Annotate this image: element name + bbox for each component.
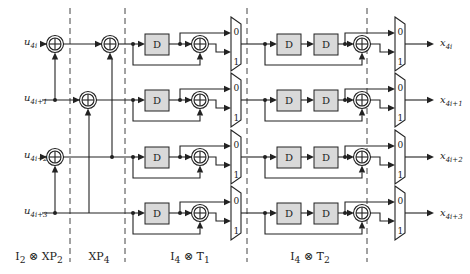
delay-label: D xyxy=(322,95,330,106)
delay-label: D xyxy=(153,39,161,50)
output-label-3: x4i+3 xyxy=(440,208,463,221)
arrow-right-icon xyxy=(270,97,277,103)
mux-input-0-label: 0 xyxy=(234,140,240,150)
arrow-right-icon xyxy=(307,97,314,103)
wire xyxy=(371,100,391,108)
arrow-right-icon xyxy=(138,154,145,160)
arrow-up-icon xyxy=(359,109,365,116)
wire xyxy=(371,213,391,221)
stage-label-xp4: XP4 xyxy=(72,251,126,264)
arrow-up-icon xyxy=(197,109,203,116)
mux-input-0-label: 0 xyxy=(398,140,404,150)
wire xyxy=(209,100,227,108)
mux-input-1-label: 1 xyxy=(234,170,240,180)
arrow-up-icon xyxy=(359,53,365,60)
output-label-1: x4i+1 xyxy=(440,95,463,108)
mux-input-0-label: 0 xyxy=(234,27,240,37)
arrow-right-icon xyxy=(224,49,231,55)
input-label-0: u4i xyxy=(24,37,37,50)
arrow-right-icon xyxy=(224,143,231,149)
arrow-up-icon xyxy=(359,166,365,173)
arrow-right-icon xyxy=(388,49,395,55)
mux-input-1-label: 1 xyxy=(398,170,404,180)
xor-gate xyxy=(192,149,209,166)
xor-gate xyxy=(102,36,119,53)
xor-gate xyxy=(192,36,209,53)
xor-gate xyxy=(354,205,371,222)
arrow-up-icon xyxy=(197,166,203,173)
xor-gate xyxy=(47,149,64,166)
wire xyxy=(209,157,227,165)
input-label-3: u4i+3 xyxy=(24,206,47,219)
delay-label: D xyxy=(322,39,330,50)
arrow-right-icon xyxy=(307,41,314,47)
mux-input-0-label: 0 xyxy=(398,83,404,93)
arrow-up-icon xyxy=(107,53,113,60)
arrow-right-icon xyxy=(427,154,434,160)
arrow-up-icon xyxy=(52,53,58,60)
arrow-right-icon xyxy=(307,210,314,216)
arrow-right-icon xyxy=(270,210,277,216)
arrow-right-icon xyxy=(185,154,192,160)
output-label-2: x4i+2 xyxy=(440,151,463,164)
arrow-right-icon xyxy=(224,105,231,111)
output-label-0: x4i xyxy=(440,38,452,51)
arrow-right-icon xyxy=(138,97,145,103)
delay-label: D xyxy=(322,152,330,163)
arrow-right-icon xyxy=(270,154,277,160)
arrow-right-icon xyxy=(388,199,395,205)
delay-label: D xyxy=(153,152,161,163)
arrow-right-icon xyxy=(95,41,102,47)
arrow-right-icon xyxy=(73,97,80,103)
mux-input-1-label: 1 xyxy=(398,226,404,236)
arrow-right-icon xyxy=(388,105,395,111)
stage-label-i4-t1: I4 ⊗ T1 xyxy=(150,251,230,264)
arrow-right-icon xyxy=(427,41,434,47)
arrow-right-icon xyxy=(138,210,145,216)
arrow-right-icon xyxy=(224,218,231,224)
diagram-canvas: D01D01D01D01DD01DD01DD01DD01 xyxy=(0,0,470,274)
wire xyxy=(209,213,227,221)
delay-label: D xyxy=(153,95,161,106)
stage-label-i2-xp2: I2 ⊗ XP2 xyxy=(8,251,70,264)
arrow-right-icon xyxy=(185,41,192,47)
arrow-right-icon xyxy=(388,218,395,224)
delay-label: D xyxy=(285,95,293,106)
arrow-right-icon xyxy=(427,210,434,216)
mux-input-1-label: 1 xyxy=(234,226,240,236)
arrow-right-icon xyxy=(388,162,395,168)
wire xyxy=(371,44,391,52)
arrow-right-icon xyxy=(138,41,145,47)
input-label-2: u4i+2 xyxy=(24,150,47,163)
mux-input-1-label: 1 xyxy=(398,57,404,67)
xor-gate xyxy=(80,92,97,109)
delay-label: D xyxy=(322,208,330,219)
mux-input-0-label: 0 xyxy=(398,196,404,206)
arrow-right-icon xyxy=(224,86,231,92)
delay-label: D xyxy=(285,208,293,219)
arrow-right-icon xyxy=(224,30,231,36)
delay-label: D xyxy=(285,39,293,50)
xor-gate xyxy=(354,36,371,53)
mux-input-0-label: 0 xyxy=(234,196,240,206)
xor-gate xyxy=(354,149,371,166)
xor-gate xyxy=(354,92,371,109)
arrow-right-icon xyxy=(388,143,395,149)
arrow-right-icon xyxy=(224,162,231,168)
mux-input-1-label: 1 xyxy=(398,113,404,123)
mux-input-1-label: 1 xyxy=(234,57,240,67)
arrow-right-icon xyxy=(307,154,314,160)
arrow-up-icon xyxy=(85,109,91,116)
arrow-right-icon xyxy=(224,199,231,205)
arrow-right-icon xyxy=(185,210,192,216)
arrow-up-icon xyxy=(197,222,203,229)
wire xyxy=(209,44,227,52)
stage-label-i4-t2: I4 ⊗ T2 xyxy=(270,251,350,264)
arrow-up-icon xyxy=(52,166,58,173)
delay-label: D xyxy=(285,152,293,163)
input-label-1: u4i+1 xyxy=(24,93,47,106)
arrow-right-icon xyxy=(270,41,277,47)
arrow-right-icon xyxy=(185,97,192,103)
xor-gate xyxy=(192,205,209,222)
xor-gate xyxy=(47,36,64,53)
